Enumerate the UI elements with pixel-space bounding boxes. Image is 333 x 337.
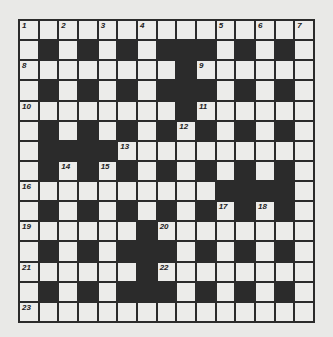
- grid-cell[interactable]: [138, 162, 156, 180]
- grid-cell[interactable]: [217, 41, 235, 59]
- grid-cell[interactable]: [99, 242, 117, 260]
- grid-cell[interactable]: [256, 61, 274, 79]
- grid-cell[interactable]: 18: [256, 202, 274, 220]
- grid-cell[interactable]: [79, 102, 97, 120]
- grid-cell[interactable]: [217, 283, 235, 301]
- grid-cell[interactable]: [59, 303, 77, 321]
- grid-cell[interactable]: [217, 61, 235, 79]
- grid-cell[interactable]: [40, 222, 58, 240]
- grid-cell[interactable]: [138, 61, 156, 79]
- grid-cell[interactable]: 20: [158, 222, 176, 240]
- grid-cell[interactable]: [20, 81, 38, 99]
- grid-cell[interactable]: 6: [256, 21, 274, 39]
- grid-cell[interactable]: [236, 142, 254, 160]
- grid-cell[interactable]: 12: [177, 122, 195, 140]
- grid-cell[interactable]: 17: [217, 202, 235, 220]
- grid-cell[interactable]: [256, 263, 274, 281]
- grid-cell[interactable]: [138, 303, 156, 321]
- grid-cell[interactable]: 10: [20, 102, 38, 120]
- grid-cell[interactable]: [236, 102, 254, 120]
- grid-cell[interactable]: [217, 242, 235, 260]
- grid-cell[interactable]: [256, 283, 274, 301]
- grid-cell[interactable]: [118, 61, 136, 79]
- grid-cell[interactable]: [158, 182, 176, 200]
- grid-cell[interactable]: [138, 41, 156, 59]
- grid-cell[interactable]: [59, 122, 77, 140]
- grid-cell[interactable]: 7: [295, 21, 313, 39]
- grid-cell[interactable]: [295, 122, 313, 140]
- grid-cell[interactable]: [99, 222, 117, 240]
- grid-cell[interactable]: [177, 242, 195, 260]
- grid-cell[interactable]: [295, 283, 313, 301]
- grid-cell[interactable]: [40, 263, 58, 281]
- grid-cell[interactable]: [217, 303, 235, 321]
- grid-cell[interactable]: [138, 142, 156, 160]
- grid-cell[interactable]: 16: [20, 182, 38, 200]
- grid-cell[interactable]: [236, 303, 254, 321]
- grid-cell[interactable]: [276, 222, 294, 240]
- grid-cell[interactable]: [256, 122, 274, 140]
- grid-cell[interactable]: [158, 102, 176, 120]
- grid-cell[interactable]: 1: [20, 21, 38, 39]
- grid-cell[interactable]: [197, 303, 215, 321]
- grid-cell[interactable]: [40, 21, 58, 39]
- grid-cell[interactable]: [158, 21, 176, 39]
- grid-cell[interactable]: [236, 21, 254, 39]
- grid-cell[interactable]: [59, 263, 77, 281]
- grid-cell[interactable]: [177, 182, 195, 200]
- grid-cell[interactable]: 13: [118, 142, 136, 160]
- grid-cell[interactable]: [59, 102, 77, 120]
- grid-cell[interactable]: [177, 263, 195, 281]
- grid-cell[interactable]: [256, 242, 274, 260]
- grid-cell[interactable]: 3: [99, 21, 117, 39]
- grid-cell[interactable]: [177, 283, 195, 301]
- grid-cell[interactable]: [138, 81, 156, 99]
- grid-cell[interactable]: [256, 222, 274, 240]
- grid-cell[interactable]: [236, 263, 254, 281]
- grid-cell[interactable]: [79, 21, 97, 39]
- grid-cell[interactable]: [99, 202, 117, 220]
- grid-cell[interactable]: 23: [20, 303, 38, 321]
- grid-cell[interactable]: [256, 102, 274, 120]
- grid-cell[interactable]: [138, 122, 156, 140]
- grid-cell[interactable]: [217, 142, 235, 160]
- grid-cell[interactable]: 15: [99, 162, 117, 180]
- grid-cell[interactable]: [197, 263, 215, 281]
- grid-cell[interactable]: [295, 81, 313, 99]
- grid-cell[interactable]: 2: [59, 21, 77, 39]
- grid-cell[interactable]: [295, 222, 313, 240]
- grid-cell[interactable]: 5: [217, 21, 235, 39]
- grid-cell[interactable]: [59, 242, 77, 260]
- grid-cell[interactable]: [20, 242, 38, 260]
- grid-cell[interactable]: [138, 202, 156, 220]
- grid-cell[interactable]: [295, 263, 313, 281]
- grid-cell[interactable]: [99, 182, 117, 200]
- grid-cell[interactable]: [20, 142, 38, 160]
- grid-cell[interactable]: 19: [20, 222, 38, 240]
- grid-cell[interactable]: [217, 222, 235, 240]
- grid-cell[interactable]: [197, 142, 215, 160]
- grid-cell[interactable]: [20, 41, 38, 59]
- grid-cell[interactable]: [59, 81, 77, 99]
- grid-cell[interactable]: [99, 122, 117, 140]
- grid-cell[interactable]: [276, 61, 294, 79]
- grid-cell[interactable]: [276, 21, 294, 39]
- grid-cell[interactable]: [217, 162, 235, 180]
- grid-cell[interactable]: [295, 102, 313, 120]
- grid-cell[interactable]: [256, 303, 274, 321]
- grid-cell[interactable]: [99, 263, 117, 281]
- grid-cell[interactable]: [236, 61, 254, 79]
- grid-cell[interactable]: [59, 222, 77, 240]
- grid-cell[interactable]: [118, 303, 136, 321]
- grid-cell[interactable]: [99, 61, 117, 79]
- grid-cell[interactable]: [40, 61, 58, 79]
- grid-cell[interactable]: [295, 202, 313, 220]
- grid-cell[interactable]: [217, 122, 235, 140]
- grid-cell[interactable]: [99, 283, 117, 301]
- grid-cell[interactable]: 9: [197, 61, 215, 79]
- grid-cell[interactable]: [217, 102, 235, 120]
- grid-cell[interactable]: [177, 303, 195, 321]
- grid-cell[interactable]: [79, 263, 97, 281]
- grid-cell[interactable]: [79, 61, 97, 79]
- grid-cell[interactable]: [276, 102, 294, 120]
